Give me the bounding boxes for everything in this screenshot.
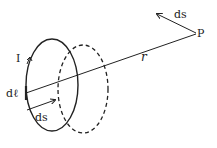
solid-loop bbox=[26, 39, 78, 131]
line-element-label: dℓ bbox=[6, 87, 18, 100]
loop-displacement-label: ds bbox=[35, 111, 48, 124]
current-label: I bbox=[16, 52, 20, 65]
biot-savart-loop-diagram: I dℓ ds ds P r bbox=[0, 0, 217, 148]
loop-displacement-arrow bbox=[27, 100, 55, 110]
distance-line bbox=[26, 34, 196, 93]
dashed-loop bbox=[58, 45, 108, 133]
point-label: P bbox=[197, 27, 205, 40]
distance-label: r bbox=[141, 50, 148, 64]
point-displacement-label: ds bbox=[174, 8, 187, 21]
